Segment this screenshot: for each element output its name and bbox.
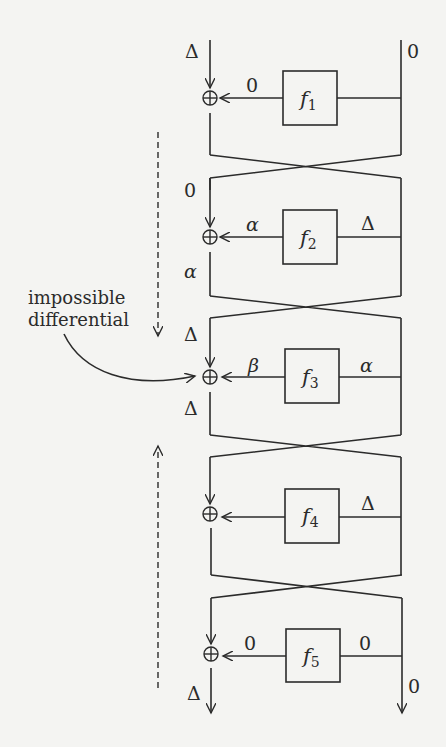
- f-in-diff-label: Δ: [361, 492, 375, 514]
- feistel-diagram: f1 Δ 0 0 f2 0 α Δ α: [0, 0, 446, 747]
- f-out-diff-label: β: [247, 354, 259, 376]
- annotation-pointer-arrow: [64, 334, 195, 381]
- left-in-diff-label: Δ: [184, 323, 198, 345]
- left-in-diff-label: 0: [184, 179, 196, 201]
- annotation-line-2: differential: [28, 309, 129, 330]
- round-1: f1 Δ 0 0: [185, 40, 419, 155]
- xor-icon: [204, 647, 218, 661]
- round-5: f5 0 0 Δ 0: [187, 598, 420, 713]
- f-in-diff-label: Δ: [361, 212, 375, 234]
- round-2: f2 0 α Δ α: [184, 178, 401, 296]
- f-in-diff-label: α: [360, 354, 373, 376]
- f-out-diff-label: α: [246, 213, 259, 235]
- left-out-diff-label: Δ: [184, 397, 198, 419]
- impossible-differential-annotation: impossible differential: [28, 287, 195, 381]
- right-in-diff-label: 0: [407, 40, 419, 62]
- left-in-diff-label: Δ: [185, 40, 199, 62]
- annotation-line-1: impossible: [28, 287, 125, 308]
- f-out-diff-label: 0: [246, 74, 258, 96]
- right-output-diff-label: 0: [408, 675, 420, 697]
- xor-icon: [203, 370, 217, 384]
- round-4: f4 Δ: [203, 457, 401, 575]
- round-3: f3 Δ β α Δ: [184, 318, 401, 435]
- f-in-diff-label: 0: [359, 632, 371, 654]
- xor-icon: [203, 507, 217, 521]
- left-out-diff-label: α: [184, 260, 197, 282]
- f-out-diff-label: 0: [244, 632, 256, 654]
- xor-icon: [203, 91, 217, 105]
- left-output-diff-label: Δ: [187, 682, 201, 704]
- xor-icon: [203, 230, 217, 244]
